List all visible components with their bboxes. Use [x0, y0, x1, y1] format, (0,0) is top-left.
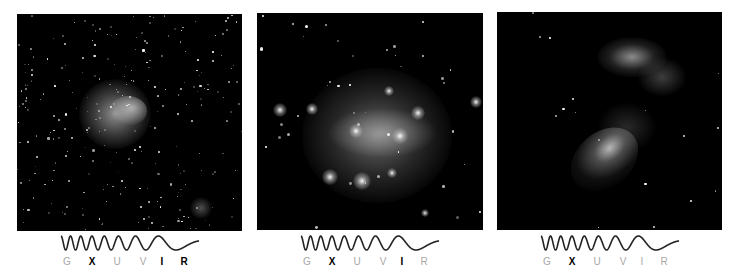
band-label-u: U [113, 256, 120, 268]
band-label-g: G [543, 256, 551, 268]
band-label-r: R [180, 256, 187, 268]
band-label-i: I [401, 256, 404, 268]
spectrum-legend-2: GXUVIR [300, 234, 440, 274]
band-label-u: U [593, 256, 600, 268]
wave-icon [540, 234, 680, 254]
image-panel-3 [497, 12, 722, 230]
band-label-r: R [660, 256, 667, 268]
band-label-x: X [89, 256, 96, 268]
band-label-g: G [303, 256, 311, 268]
band-label-x: X [329, 256, 336, 268]
wave-icon [300, 234, 440, 254]
band-label-u: U [353, 256, 360, 268]
band-label-r: R [420, 256, 427, 268]
spectrum-legend-1: GXUVIR [60, 234, 200, 274]
band-label-v: V [140, 256, 147, 268]
wave-icon [60, 234, 200, 254]
band-label-v: V [380, 256, 387, 268]
band-label-x: X [569, 256, 576, 268]
nebula-core [109, 96, 147, 126]
band-label-g: G [63, 256, 71, 268]
band-label-v: V [620, 256, 627, 268]
band-label-i: I [641, 256, 644, 268]
image-panel-2 [257, 13, 483, 230]
band-label-i: I [161, 256, 164, 268]
faint-blob [189, 197, 213, 219]
upper-filaments [637, 57, 687, 97]
spectrum-legend-3: GXUVIR [540, 234, 680, 274]
image-panel-1 [17, 14, 242, 231]
